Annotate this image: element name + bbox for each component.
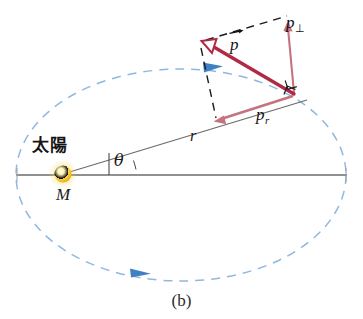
central-mass-label: M (56, 186, 70, 203)
momentum-radial-label: pr (256, 106, 269, 126)
orbital-momentum-diagram (0, 0, 363, 319)
orbit-direction-arrow-bottom (130, 269, 151, 278)
momentum-radial-subscript: r (265, 114, 270, 126)
momentum-vector-symbol: p (230, 35, 239, 54)
momentum-perp-base: p (286, 13, 295, 32)
figure-caption: (b) (0, 292, 363, 309)
momentum-radial-base: p (256, 105, 265, 124)
momentum-radial-vector (214, 96, 294, 124)
angle-theta-label: θ (114, 153, 124, 169)
momentum-perp-subscript: ⊥ (295, 22, 306, 34)
momentum-perpendicular-label: p⊥ (286, 14, 305, 34)
radius-label: r (190, 128, 196, 144)
figure-canvas: 太陽 M θ r p p⊥ pr (b) (0, 0, 363, 319)
vector-arrow-icon (229, 29, 244, 36)
radius-line (63, 100, 307, 174)
sun-label: 太陽 (32, 137, 68, 154)
momentum-vector-label: p (230, 29, 239, 53)
